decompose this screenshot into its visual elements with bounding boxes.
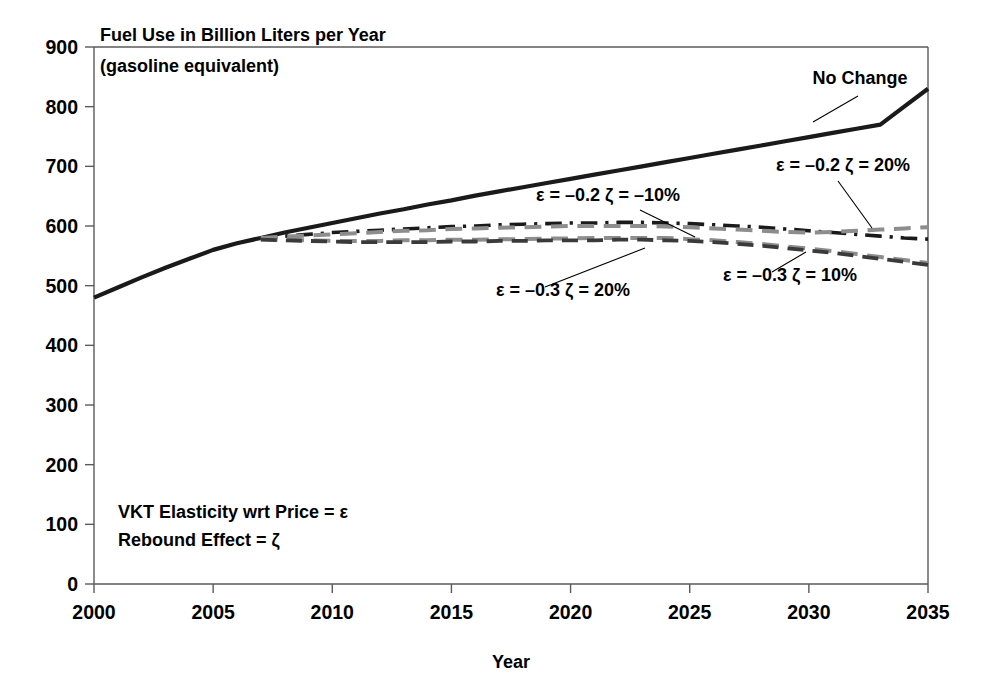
- note-line-2: Rebound Effect = ζ: [118, 530, 280, 551]
- x-axis-ticks: 20002005201020152020202520302035: [72, 584, 950, 623]
- annotation-no-change: No Change: [812, 68, 907, 88]
- y-tick-label: 200: [45, 454, 78, 476]
- chart-subtitle: (gasoline equivalent): [100, 56, 279, 76]
- series-0-2-20: [261, 226, 928, 238]
- y-tick-label: 900: [45, 36, 78, 58]
- annotation-eps-02-zeta-neg10: ε = –0.2 ζ = –10%: [536, 185, 680, 206]
- y-axis-ticks: 0100200300400500600700800900: [45, 36, 94, 595]
- y-tick-label: 400: [45, 334, 78, 356]
- x-tick-label: 2035: [906, 601, 950, 623]
- x-tick-label: 2020: [549, 601, 593, 623]
- x-tick-label: 2025: [668, 601, 712, 623]
- annotation-leader-eps-02-zeta-20: [838, 181, 872, 228]
- annotation-eps-03-zeta-20: ε = –0.3 ζ = 20%: [496, 280, 630, 301]
- y-tick-label: 0: [67, 573, 78, 595]
- x-tick-label: 2005: [191, 601, 235, 623]
- chart-title: Fuel Use in Billion Liters per Year: [100, 25, 386, 45]
- annotation-leader-eps-02-zeta-neg10: [640, 210, 695, 237]
- annotation-eps-02-zeta-20: ε = –0.2 ζ = 20%: [776, 155, 910, 176]
- x-tick-label: 2010: [311, 601, 355, 623]
- y-tick-label: 300: [45, 394, 78, 416]
- x-tick-label: 2030: [787, 601, 831, 623]
- fuel-use-line-chart: 0100200300400500600700800900 20002005201…: [0, 0, 994, 689]
- y-tick-label: 500: [45, 275, 78, 297]
- annotation-eps-03-zeta-10: ε = –0.3 ζ = 10%: [723, 265, 857, 286]
- y-tick-label: 800: [45, 96, 78, 118]
- annotation-layer: No Changeε = –0.2 ζ = –10%ε = –0.2 ζ = 2…: [496, 68, 910, 301]
- series-0-3-10: [261, 240, 928, 265]
- y-tick-label: 600: [45, 215, 78, 237]
- y-tick-label: 700: [45, 155, 78, 177]
- annotation-leader-no-change: [813, 96, 858, 122]
- x-axis-title: Year: [492, 652, 530, 672]
- note-line-1: VKT Elasticity wrt Price = ε: [118, 502, 349, 522]
- chart-container: 0100200300400500600700800900 20002005201…: [0, 0, 994, 689]
- x-tick-label: 2000: [72, 601, 116, 623]
- x-tick-label: 2015: [430, 601, 474, 623]
- y-tick-label: 100: [45, 513, 78, 535]
